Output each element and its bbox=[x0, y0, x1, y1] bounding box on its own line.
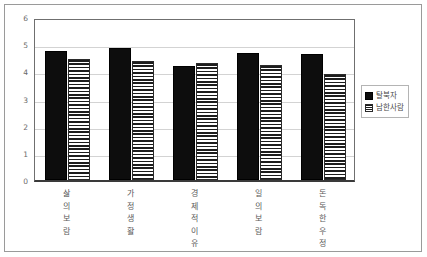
label-char: 유 bbox=[191, 238, 198, 251]
bar-series1 bbox=[301, 54, 323, 180]
x-category-label: 가정생활 bbox=[127, 188, 134, 238]
label-char: 보 bbox=[63, 213, 70, 226]
y-tick-label: 0 bbox=[2, 178, 28, 186]
y-tick-label: 4 bbox=[2, 70, 28, 78]
label-char: 의 bbox=[255, 201, 262, 214]
bar-series2 bbox=[324, 74, 346, 180]
bar-series2 bbox=[132, 61, 154, 180]
bar-group bbox=[45, 20, 90, 180]
bar-group bbox=[109, 20, 154, 180]
label-char: 의 bbox=[63, 201, 70, 214]
label-char: 독 bbox=[319, 201, 326, 214]
label-char: 적 bbox=[191, 213, 198, 226]
hatched-square-swatch bbox=[365, 104, 373, 112]
legend-label: 남한사람 bbox=[376, 104, 404, 112]
legend-item: 남한사람 bbox=[365, 102, 404, 113]
y-tick-label: 5 bbox=[2, 42, 28, 50]
bar-group bbox=[237, 20, 282, 180]
bar-series2 bbox=[196, 63, 218, 180]
label-char: 우 bbox=[319, 226, 326, 239]
bar-series1 bbox=[237, 53, 259, 180]
label-char: 생 bbox=[127, 213, 134, 226]
bar-series1 bbox=[173, 66, 195, 180]
bar-group bbox=[301, 20, 346, 180]
bar-series2 bbox=[260, 65, 282, 180]
label-char: 삶 bbox=[63, 188, 70, 201]
chart-legend: 탈북자남한사람 bbox=[361, 85, 409, 118]
x-axis-category-labels: 삶의보람가정생활경제적이유일의보람돈독한우정 bbox=[34, 188, 355, 254]
label-char: 경 bbox=[191, 188, 198, 201]
x-category-label: 돈독한우정 bbox=[319, 188, 326, 251]
label-char: 제 bbox=[191, 201, 198, 214]
label-char: 한 bbox=[319, 213, 326, 226]
y-tick-label: 1 bbox=[2, 151, 28, 159]
label-char: 가 bbox=[127, 188, 134, 201]
bar-series1 bbox=[109, 48, 131, 180]
label-char: 활 bbox=[127, 226, 134, 239]
label-char: 보 bbox=[255, 213, 262, 226]
label-char: 일 bbox=[255, 188, 262, 201]
legend-label: 탈북자 bbox=[376, 92, 397, 100]
y-tick-label: 6 bbox=[2, 15, 28, 23]
label-char: 람 bbox=[63, 226, 70, 239]
bar-group bbox=[173, 20, 218, 180]
label-char: 정 bbox=[127, 201, 134, 214]
x-category-label: 경제적이유 bbox=[191, 188, 198, 251]
bars-layer bbox=[35, 20, 354, 180]
legend-item: 탈북자 bbox=[365, 90, 404, 101]
bar-series1 bbox=[45, 51, 67, 180]
plot-area bbox=[34, 19, 355, 182]
y-tick-label: 2 bbox=[2, 124, 28, 132]
y-tick-label: 3 bbox=[2, 97, 28, 105]
label-char: 람 bbox=[255, 226, 262, 239]
bar-series2 bbox=[68, 59, 90, 180]
x-category-label: 일의보람 bbox=[255, 188, 262, 238]
x-category-label: 삶의보람 bbox=[63, 188, 70, 238]
label-char: 돈 bbox=[319, 188, 326, 201]
label-char: 이 bbox=[191, 226, 198, 239]
label-char: 정 bbox=[319, 238, 326, 251]
black-square-swatch bbox=[365, 92, 373, 100]
bar-chart-figure: 0123456 삶의보람가정생활경제적이유일의보람돈독한우정 탈북자남한사람 bbox=[0, 0, 427, 257]
